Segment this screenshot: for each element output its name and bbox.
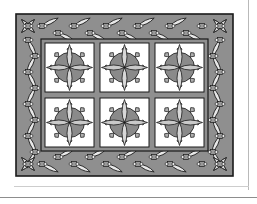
block-r1c2 bbox=[100, 43, 149, 92]
quilt-svg bbox=[15, 13, 234, 177]
quilt-diagram bbox=[15, 13, 234, 177]
block-r2c3 bbox=[155, 98, 204, 147]
block-r2c1 bbox=[45, 98, 94, 147]
block-r1c3 bbox=[155, 43, 204, 92]
page-rule-bottom bbox=[0, 197, 257, 198]
page-rule-right bbox=[248, 0, 249, 190]
block-r2c2 bbox=[100, 98, 149, 147]
page-rule-inner-bottom bbox=[14, 186, 249, 187]
block-r1c1 bbox=[45, 43, 94, 92]
figure-canvas bbox=[0, 0, 257, 204]
